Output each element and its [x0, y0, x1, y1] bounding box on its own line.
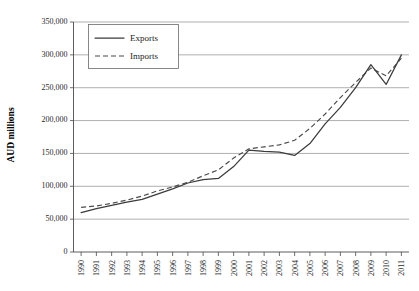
x-axis-tick-label: 2010 — [382, 260, 391, 276]
x-axis-tick-label: 2009 — [367, 260, 376, 276]
x-axis-tick-label: 1999 — [214, 260, 223, 276]
x-axis-tick-label: 2011 — [397, 260, 406, 276]
x-axis-tick-label: 1994 — [138, 260, 147, 276]
y-axis-tick-label: 300,000 — [42, 50, 68, 59]
x-axis-tick-label: 1992 — [108, 260, 117, 276]
x-axis-tick-label: 2004 — [291, 260, 300, 276]
x-axis-tick-label: 2000 — [230, 260, 239, 276]
line-chart: 050,000100,000150,000200,000250,000300,0… — [0, 0, 419, 291]
y-axis-tick-label: 150,000 — [42, 148, 68, 157]
legend-label-exports: Exports — [130, 33, 158, 43]
y-axis-tick-label: 350,000 — [42, 17, 68, 26]
x-axis-tick-label: 1990 — [77, 260, 86, 276]
legend-border — [89, 25, 179, 69]
x-axis-tick-label: 2001 — [245, 260, 254, 276]
series-line-imports — [81, 58, 401, 207]
x-axis-tick-label: 1993 — [123, 260, 132, 276]
x-axis-tick-label: 1996 — [169, 260, 178, 276]
series-line-exports — [81, 55, 401, 213]
legend-label-imports: Imports — [130, 51, 158, 61]
x-axis-tick-label: 1995 — [153, 260, 162, 276]
y-axis-tick-labels: 050,000100,000150,000200,000250,000300,0… — [42, 17, 74, 256]
y-axis-tick-label: 200,000 — [42, 115, 68, 124]
x-axis-ticks-group — [81, 252, 401, 256]
y-axis-tick-label: 50,000 — [46, 214, 68, 223]
x-axis-tick-label: 2003 — [275, 260, 284, 276]
y-axis-title: AUD millions — [6, 107, 16, 162]
chart-legend: Exports Imports — [89, 25, 179, 69]
x-axis-tick-label: 1998 — [199, 260, 208, 276]
y-axis-tick-label: 100,000 — [42, 181, 68, 190]
x-axis-tick-label: 2007 — [336, 260, 345, 276]
x-axis-tick-label: 2005 — [306, 260, 315, 276]
y-axis-tick-label: 250,000 — [42, 83, 68, 92]
y-axis-tick-label: 0 — [64, 247, 68, 256]
chart-canvas: 050,000100,000150,000200,000250,000300,0… — [0, 0, 419, 291]
x-axis-tick-label: 2008 — [352, 260, 361, 276]
x-axis-tick-label: 1991 — [92, 260, 101, 276]
x-axis-tick-labels: 1990199119921993199419951996199719981999… — [77, 260, 406, 276]
x-axis-tick-label: 2002 — [260, 260, 269, 276]
x-axis-tick-label: 2006 — [321, 260, 330, 276]
x-axis-tick-label: 1997 — [184, 260, 193, 276]
